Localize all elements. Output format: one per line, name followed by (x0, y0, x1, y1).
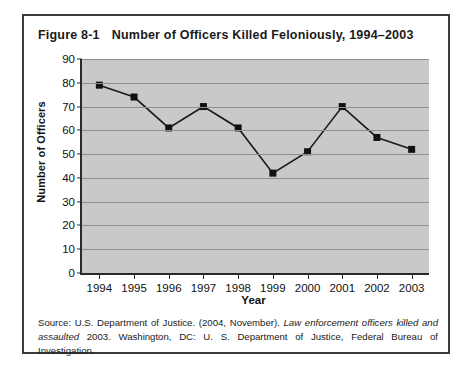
x-axis-tick-mark (134, 273, 135, 279)
x-axis-tick-label: 1996 (156, 282, 182, 294)
figure-title-text: Number of Officers Killed Feloniously, 1… (112, 28, 414, 42)
y-axis-tick-mark (77, 106, 82, 107)
x-axis-title: Year (80, 294, 427, 306)
data-point-marker (131, 94, 138, 101)
gridline (82, 225, 429, 226)
plot-area: 9080706050403020100199419951996199719981… (80, 59, 429, 275)
y-axis-tick-label: 20 (62, 219, 75, 231)
data-point-marker (373, 134, 380, 141)
x-axis-tick-mark (203, 273, 204, 279)
y-axis-tick-label: 40 (62, 172, 75, 184)
x-axis-tick-mark (377, 273, 378, 279)
x-axis-tick-label: 1998 (225, 282, 251, 294)
source-prefix: Source: U.S. Department of Justice. (200… (38, 317, 284, 328)
y-axis-tick-mark (77, 201, 82, 202)
y-axis-title: Number of Officers (35, 92, 47, 212)
x-axis-tick-mark (342, 273, 343, 279)
x-axis-tick-label: 1995 (121, 282, 147, 294)
source-suffix: 2003. Washington, DC: U. S. Department o… (38, 331, 438, 356)
x-axis-tick-mark (308, 273, 309, 279)
gridline (82, 59, 429, 60)
gridline (82, 130, 429, 131)
data-point-marker (269, 170, 276, 177)
y-axis-tick-mark (77, 225, 82, 226)
x-axis-tick-label: 2000 (295, 282, 321, 294)
gridline (82, 249, 429, 250)
y-axis-tick-label: 10 (62, 243, 75, 255)
chart-region: Number of Officers 908070605040302010019… (24, 42, 452, 314)
gridline (82, 154, 429, 155)
y-axis-tick-mark (77, 82, 82, 83)
source-note: Source: U.S. Department of Justice. (200… (38, 316, 438, 358)
gridline (82, 107, 429, 108)
x-axis-tick-mark (238, 273, 239, 279)
y-axis-tick-label: 30 (62, 196, 75, 208)
x-axis-tick-mark (99, 273, 100, 279)
y-axis-tick-label: 70 (62, 101, 75, 113)
y-axis-tick-mark (77, 154, 82, 155)
y-axis-tick-mark (77, 177, 82, 178)
y-axis-tick-mark (77, 273, 82, 274)
y-axis-tick-mark (77, 130, 82, 131)
x-axis-tick-mark (169, 273, 170, 279)
line-series (82, 59, 429, 273)
data-point-marker (408, 146, 415, 153)
y-axis-tick-label: 80 (62, 77, 75, 89)
y-axis-tick-label: 0 (69, 267, 75, 279)
figure-frame: Figure 8-1Number of Officers Killed Felo… (22, 14, 450, 354)
figure-title: Figure 8-1Number of Officers Killed Felo… (38, 28, 414, 42)
y-axis-tick-label: 50 (62, 148, 75, 160)
x-axis-tick-label: 2003 (399, 282, 425, 294)
y-axis-tick-mark (77, 59, 82, 60)
x-axis-tick-label: 1994 (87, 282, 113, 294)
gridline (82, 83, 429, 84)
y-axis-tick-mark (77, 249, 82, 250)
series-line (99, 85, 411, 173)
y-axis-tick-label: 60 (62, 124, 75, 136)
x-axis-tick-label: 2002 (364, 282, 390, 294)
x-axis-tick-mark (273, 273, 274, 279)
x-axis-tick-label: 1997 (191, 282, 217, 294)
x-axis-tick-label: 2001 (329, 282, 355, 294)
x-axis-tick-mark (412, 273, 413, 279)
y-axis-tick-label: 90 (62, 53, 75, 65)
figure-number: Figure 8-1 (38, 28, 100, 42)
gridline (82, 178, 429, 179)
gridline (82, 202, 429, 203)
x-axis-tick-label: 1999 (260, 282, 286, 294)
